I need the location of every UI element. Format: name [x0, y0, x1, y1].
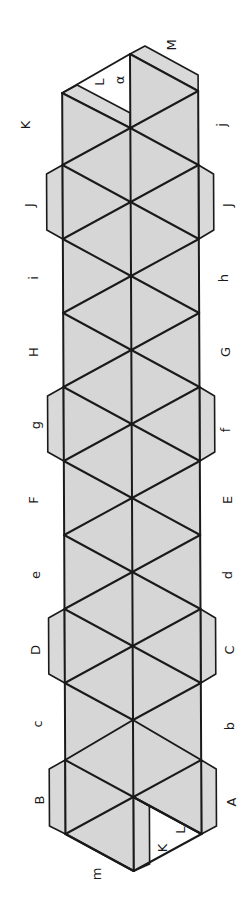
left-edge-label: F [26, 496, 41, 503]
right-glue-tab [198, 165, 213, 239]
bottom-edge-label: K [155, 843, 170, 852]
bottom-center-glue-tab [133, 797, 149, 871]
right-edge-label: A [224, 797, 239, 806]
left-edge-label: i [26, 276, 41, 280]
right-edge-label: J [220, 203, 235, 208]
left-glue-tab [49, 609, 65, 683]
left-edge-label: K [18, 120, 33, 129]
top-edge-label: α [112, 76, 127, 85]
right-edge-label: b [222, 722, 237, 730]
left-edge-label: e [28, 571, 43, 579]
right-edge-label: G [218, 347, 233, 357]
bottom-edge-label: L [173, 826, 188, 834]
bottom-edge-label: m [89, 868, 104, 881]
left-edge-label: c [30, 720, 45, 727]
top-edge-label: M [164, 39, 179, 50]
diagonal-fold-line [62, 54, 130, 93]
right-glue-tab [200, 609, 215, 683]
left-glue-tab [48, 387, 64, 461]
right-edge-label: j [214, 123, 229, 128]
left-edge-label: D [28, 645, 43, 655]
right-edge-label: C [222, 645, 237, 654]
left-edge-label: H [26, 347, 41, 357]
left-edge-label: B [32, 796, 47, 805]
left-glue-tab [47, 165, 63, 239]
right-edge-label: E [220, 496, 235, 504]
right-edge-label: d [220, 571, 235, 579]
right-glue-tab [199, 387, 214, 461]
top-edge-label: L [92, 78, 107, 86]
triangle-net-diagram: KJiHgFeDcBjJhGfEdCbALαMmKL [0, 0, 249, 905]
left-edge-label: g [28, 421, 43, 429]
right-glue-tab [201, 760, 216, 834]
right-edge-label: f [218, 427, 233, 432]
left-glue-tab [49, 760, 65, 834]
left-edge-label: J [22, 203, 37, 208]
right-edge-label: h [216, 274, 231, 282]
